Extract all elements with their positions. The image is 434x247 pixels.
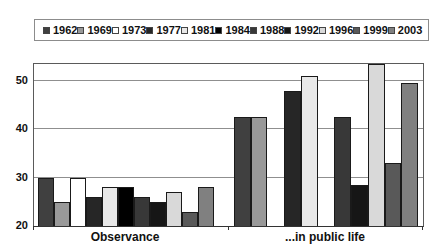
bar-observance-1969 [54, 202, 70, 226]
bar-in-public-life-1992 [351, 185, 368, 226]
bar-slot-in-public-life-1981 [301, 64, 318, 226]
legend-item-1969: 1969 [77, 24, 111, 36]
bar-observance-1996 [166, 192, 182, 226]
y-axis-labels: 20304050 [0, 63, 28, 225]
bar-in-public-life-1999 [385, 163, 402, 226]
bar-slot-in-public-life-1996 [368, 64, 385, 226]
legend-marker-1969 [77, 27, 84, 34]
legend-label-1984: 1984 [225, 24, 249, 36]
bar-slot-in-public-life-1999 [385, 64, 402, 226]
plot-area [33, 63, 424, 227]
legend: 1962196919731977198119841988199219961999… [34, 19, 429, 41]
bar-slot-in-public-life-1962 [234, 64, 251, 226]
bar-slot-observance-1992 [150, 64, 166, 226]
legend-marker-1984 [215, 27, 222, 34]
bar-slot-observance-1981 [102, 64, 118, 226]
bar-slot-in-public-life-1988 [334, 64, 351, 226]
legend-item-1988: 1988 [250, 24, 284, 36]
y-axis-label-20: 20 [0, 220, 28, 231]
bar-observance-1984 [118, 187, 134, 226]
bar-slot-in-public-life-1984 [318, 64, 335, 226]
legend-item-1977: 1977 [146, 24, 180, 36]
bar-observance-1999 [182, 212, 198, 227]
bar-observance-1992 [150, 202, 166, 226]
legend-label-1999: 1999 [363, 24, 387, 36]
bar-in-public-life-2003 [401, 83, 418, 226]
legend-item-2003: 2003 [388, 24, 422, 36]
bar-in-public-life-1996 [368, 64, 385, 226]
bar-slot-observance-1996 [166, 64, 182, 226]
y-axis-label-30: 30 [0, 171, 28, 182]
bar-slot-observance-1962 [38, 64, 54, 226]
legend-item-1984: 1984 [215, 24, 249, 36]
bar-observance-1973 [70, 178, 86, 226]
legend-marker-1988 [250, 27, 257, 34]
bar-slot-in-public-life-1977 [284, 64, 301, 226]
legend-item-1981: 1981 [181, 24, 215, 36]
legend-label-1973: 1973 [122, 24, 146, 36]
legend-marker-1962 [43, 27, 50, 34]
bar-in-public-life-1977 [284, 91, 301, 226]
bar-observance-1981 [102, 187, 118, 226]
bar-slot-in-public-life-1973 [267, 64, 284, 226]
axis-tick-right [422, 226, 423, 230]
legend-marker-1992 [284, 27, 291, 34]
legend-marker-1981 [181, 27, 188, 34]
legend-item-1999: 1999 [353, 24, 387, 36]
legend-marker-1999 [353, 27, 360, 34]
y-axis-label-50: 50 [0, 74, 28, 85]
legend-marker-1973 [112, 27, 119, 34]
bar-in-public-life-1988 [334, 117, 351, 226]
legend-item-1962: 1962 [43, 24, 77, 36]
bar-in-public-life-1962 [234, 117, 251, 226]
bar-observance-2003 [198, 187, 214, 226]
bar-slot-observance-2003 [198, 64, 214, 226]
axis-tick-left [33, 226, 34, 230]
bar-slot-observance-1984 [118, 64, 134, 226]
y-axis-label-40: 40 [0, 123, 28, 134]
legend-item-1996: 1996 [319, 24, 353, 36]
legend-marker-2003 [388, 27, 395, 34]
bar-slot-observance-1999 [182, 64, 198, 226]
bar-slot-observance-1988 [134, 64, 150, 226]
bar-slot-in-public-life-1992 [351, 64, 368, 226]
legend-label-2003: 2003 [398, 24, 422, 36]
bar-in-public-life-1969 [251, 117, 268, 226]
legend-label-1981: 1981 [191, 24, 215, 36]
legend-marker-1996 [319, 27, 326, 34]
legend-marker-1977 [146, 27, 153, 34]
legend-label-1969: 1969 [87, 24, 111, 36]
bar-slot-observance-1977 [86, 64, 102, 226]
bar-observance-1962 [38, 178, 54, 226]
bar-observance-1988 [134, 197, 150, 226]
bar-slot-in-public-life-2003 [401, 64, 418, 226]
legend-label-1977: 1977 [156, 24, 180, 36]
legend-label-1992: 1992 [294, 24, 318, 36]
bar-observance-1977 [86, 197, 102, 226]
category-label-in-public-life: ...in public life [233, 230, 417, 244]
legend-item-1992: 1992 [284, 24, 318, 36]
legend-label-1962: 1962 [53, 24, 77, 36]
legend-label-1988: 1988 [260, 24, 284, 36]
bar-in-public-life-1981 [301, 76, 318, 226]
bar-slot-in-public-life-1969 [251, 64, 268, 226]
bar-group-observance [38, 64, 214, 226]
bar-chart: 1962196919731977198119841988199219961999… [0, 0, 434, 247]
legend-item-1973: 1973 [112, 24, 146, 36]
bar-group-in-public-life [234, 64, 418, 226]
legend-label-1996: 1996 [329, 24, 353, 36]
category-label-observance: Observance [37, 230, 213, 244]
axis-tick-middle [228, 226, 229, 230]
bar-slot-observance-1973 [70, 64, 86, 226]
bar-slot-observance-1969 [54, 64, 70, 226]
